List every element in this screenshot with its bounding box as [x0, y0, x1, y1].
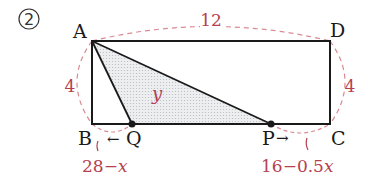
- vertex-label-C: C: [331, 127, 346, 149]
- dimension-arc-right: [330, 41, 345, 124]
- vertex-label-D: D: [330, 19, 345, 41]
- arrow-left-icon: ←: [107, 130, 120, 148]
- leader-PC: [306, 138, 308, 150]
- vertex-label-Q: Q: [126, 127, 142, 149]
- segment-label-PC: 16−0.5x: [261, 156, 334, 176]
- segment-label-BQ-var: x: [118, 156, 128, 176]
- vertex-label-P: P: [262, 127, 275, 149]
- dimension-top-label: 12: [200, 10, 222, 30]
- dimension-right-label: 4: [345, 76, 356, 96]
- vertex-label-A: A: [72, 20, 87, 42]
- vertex-label-B: B: [78, 127, 92, 149]
- segment-label-BQ: 28−x: [82, 156, 128, 176]
- area-label-y: y: [151, 83, 163, 104]
- leader-BQ: [97, 141, 98, 151]
- dimension-arc-left: [77, 41, 92, 124]
- segment-label-PC-var: x: [324, 156, 334, 176]
- arrow-right-icon: →: [276, 129, 289, 147]
- diagram-canvas: 2 A D B C Q P ← → 12 4 4 y 28−x 16−0.5x: [0, 0, 367, 183]
- problem-number: 2: [19, 9, 39, 29]
- problem-number-text: 2: [24, 10, 34, 29]
- dimension-left-label: 4: [65, 76, 76, 96]
- segment-label-BQ-const: 28−: [82, 156, 118, 176]
- segment-label-PC-const: 16−0.5: [261, 156, 324, 176]
